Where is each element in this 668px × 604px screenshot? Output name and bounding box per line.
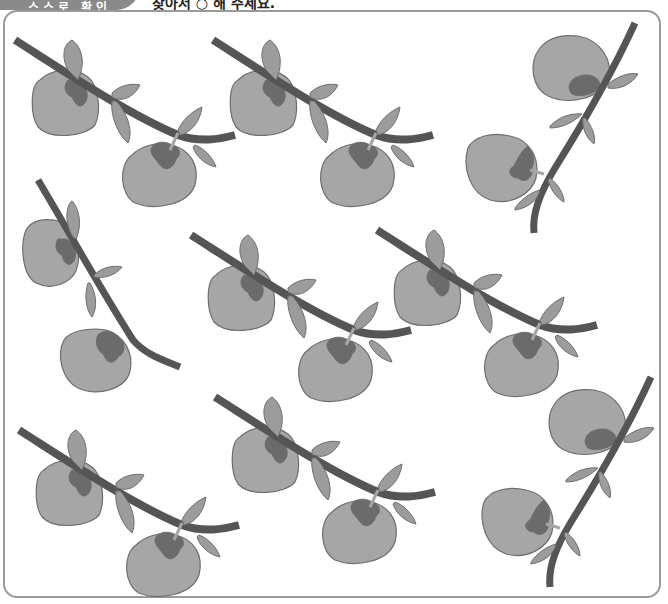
- leaf: [548, 178, 564, 202]
- persimmon-fruit: [394, 260, 460, 325]
- leaf: [312, 441, 340, 456]
- persimmon-fruit: [36, 460, 102, 525]
- leaf: [94, 266, 122, 277]
- leaf: [376, 107, 400, 135]
- persimmon-branch-2[interactable]: [208, 35, 438, 205]
- leaf: [116, 474, 144, 489]
- leaf: [378, 464, 402, 492]
- leaf: [112, 84, 140, 99]
- leaf: [288, 279, 316, 294]
- leaf: [540, 297, 564, 325]
- persimmon-branch-9[interactable]: [476, 372, 666, 592]
- persimmon-branch-8[interactable]: [210, 392, 440, 562]
- leaf: [310, 84, 338, 99]
- leaf: [583, 118, 595, 144]
- persimmon-fruit: [32, 70, 98, 135]
- leaf: [474, 274, 502, 289]
- leaf: [86, 283, 96, 317]
- leaf: [182, 497, 206, 525]
- leaf: [393, 502, 416, 524]
- persimmon-branch-4[interactable]: [18, 175, 198, 405]
- leaf: [178, 107, 202, 135]
- persimmon-fruit: [230, 70, 296, 135]
- leaf: [391, 145, 414, 167]
- persimmon-fruit: [232, 427, 298, 492]
- header-badge: 스스로 확인: [0, 0, 140, 10]
- leaf: [564, 532, 580, 556]
- persimmon-branch-3[interactable]: [460, 18, 650, 238]
- leaf: [599, 472, 611, 498]
- leaf: [555, 335, 578, 357]
- persimmon-branch-6[interactable]: [372, 225, 602, 395]
- persimmon-fruit: [208, 265, 274, 330]
